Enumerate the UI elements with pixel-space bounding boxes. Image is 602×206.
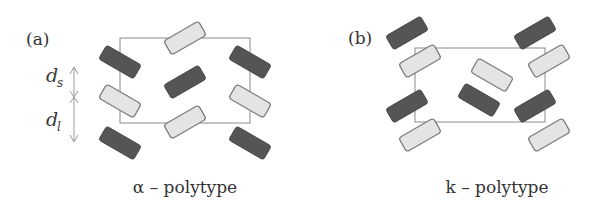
molecule-tile-dark — [386, 89, 429, 123]
molecule-tile-dark — [386, 16, 429, 50]
d-s-label: d s — [46, 64, 63, 90]
panel-a-label: (a) — [26, 29, 49, 49]
molecule-tile-dark — [458, 83, 501, 117]
molecule-tile-dark — [514, 16, 557, 50]
tiles-b — [386, 16, 571, 152]
molecule-tile-light — [164, 21, 207, 55]
molecule-tile-light — [471, 58, 514, 92]
molecule-tile-light — [399, 44, 442, 78]
molecule-tile-light — [164, 105, 207, 139]
caption-k-polytype: k – polytype — [445, 177, 548, 197]
panel-a: (a) d s d l α – polytype — [26, 21, 271, 197]
molecule-tile-dark — [99, 126, 142, 160]
molecule-tile-light — [528, 118, 571, 152]
molecule-tile-dark — [229, 126, 272, 160]
molecule-tile-light — [399, 118, 442, 152]
molecule-tile-light — [528, 44, 571, 78]
d-l-subscript: l — [57, 120, 61, 134]
molecule-tile-dark — [514, 89, 557, 123]
d-s-subscript: s — [57, 76, 63, 90]
caption-alpha-polytype: α – polytype — [133, 177, 237, 197]
spacing-arrows — [70, 67, 78, 142]
polytype-figure: (a) d s d l α – polytype (b) k – polytyp… — [0, 0, 602, 206]
molecule-tile-dark — [164, 65, 207, 99]
tiles-a — [99, 21, 272, 160]
d-l-label: d l — [46, 108, 61, 134]
panel-b: (b) k – polytype — [348, 16, 570, 197]
panel-b-label: (b) — [348, 28, 372, 48]
